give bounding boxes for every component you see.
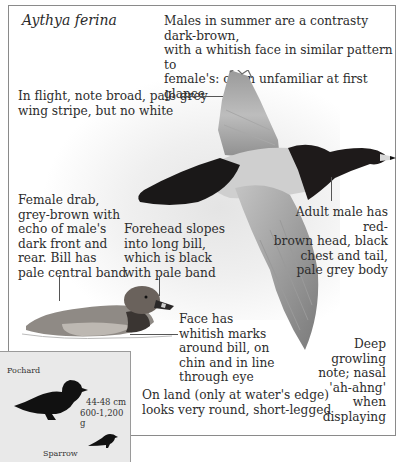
male-tail: [138, 158, 240, 205]
sparrow-label: Sparrow: [43, 449, 78, 458]
length-value: 44-48 cm: [86, 397, 126, 407]
female-line: echo of male's: [18, 222, 126, 237]
forehead-line: Forehead slopes: [124, 222, 225, 237]
weight-value: 600-1,200 g: [80, 408, 130, 428]
face-line: through eye: [179, 370, 275, 385]
forehead-line: with pale band: [124, 266, 225, 281]
upper-wing: [218, 70, 280, 160]
voice-line: Deep: [310, 337, 386, 352]
face-line: whitish marks: [179, 327, 275, 342]
adult-male-line: pale grey body: [270, 263, 388, 278]
female-line: grey-brown with: [18, 208, 126, 223]
land-line: On land (only at water's edge): [142, 388, 331, 403]
adult-male-line: chest and tail,: [270, 249, 388, 264]
latin-name: Aythya ferina: [22, 12, 117, 28]
swimming-female-pochard-illustration: [22, 282, 190, 342]
adult-male-line: brown head, black: [270, 234, 388, 249]
face-leader-line: [130, 334, 178, 335]
female-line: dark front and: [18, 237, 126, 252]
female-line: pale central band: [18, 266, 126, 281]
face-line: chin and in line: [179, 356, 275, 371]
pochard-silhouette-icon: [12, 372, 90, 422]
female-head: [124, 286, 160, 314]
female-note: Female drab, grey-brown with echo of mal…: [18, 193, 126, 281]
female-line: Female drab,: [18, 193, 126, 208]
forehead-line: into long bill,: [124, 237, 225, 252]
land-line: looks very round, short-legged: [142, 403, 331, 418]
adult-male-line: Adult male has red-: [270, 205, 388, 234]
sparrow-silhouette-icon: [86, 432, 118, 450]
voice-line: growling: [310, 352, 386, 367]
size-comparison-inset: Pochard 44-48 cm 600-1,200 g Sparrow: [0, 351, 131, 462]
adult-male-leader-line: [331, 177, 332, 201]
face-note: Face has whitish marks around bill, on c…: [179, 312, 275, 385]
face-line: Face has: [179, 312, 275, 327]
land-note: On land (only at water's edge) looks ver…: [142, 388, 331, 417]
summary-line: with a whitish face in similar pattern t…: [164, 43, 403, 72]
voice-line: note; nasal: [310, 366, 386, 381]
forehead-note: Forehead slopes into long bill, which is…: [124, 222, 225, 280]
forehead-line: which is black: [124, 251, 225, 266]
face-line: around bill, on: [179, 341, 275, 356]
summary-line: Males in summer are a contrasty dark-bro…: [164, 14, 403, 43]
adult-male-note: Adult male has red- brown head, black ch…: [270, 205, 388, 278]
female-line: rear. Bill has: [18, 251, 126, 266]
